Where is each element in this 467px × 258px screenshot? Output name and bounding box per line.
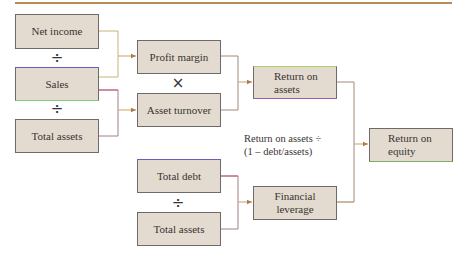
multiply-operator: × <box>172 74 185 92</box>
divide-operator: ÷ <box>172 194 185 212</box>
total-debt-box: Total debt <box>137 159 221 193</box>
roe-formula-line2: (1 – debt/assets) <box>244 145 321 158</box>
roe-formula-line1: Return on assets ÷ <box>244 132 321 145</box>
return-on-equity-box: Return on equity <box>369 128 453 162</box>
return-on-assets-box: Return on assets <box>253 66 337 99</box>
total-assets-2-box: Total assets <box>137 212 221 246</box>
divide-operator: ÷ <box>51 100 64 118</box>
total-assets-box: Total assets <box>15 119 99 153</box>
divide-operator: ÷ <box>51 49 64 67</box>
asset-turnover-box: Asset turnover <box>137 93 221 127</box>
financial-leverage-box: Financial leverage <box>253 186 337 220</box>
profit-margin-box: Profit margin <box>137 40 221 74</box>
sales-box: Sales <box>15 67 99 101</box>
net-income-box: Net income <box>15 14 99 49</box>
roe-formula-annotation: Return on assets ÷ (1 – debt/assets) <box>244 132 321 158</box>
